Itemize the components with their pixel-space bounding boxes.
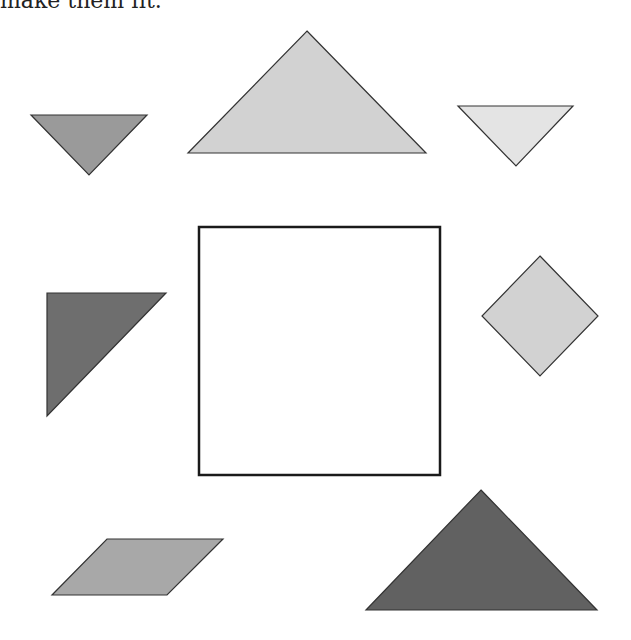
target-square-outline (199, 227, 440, 475)
medium-triangle-dark-gray[interactable] (47, 293, 166, 416)
parallelogram-gray[interactable] (52, 539, 223, 595)
large-triangle-darkest-gray[interactable] (366, 490, 597, 610)
small-triangle-lightest-gray[interactable] (458, 106, 573, 166)
small-triangle-mid-gray[interactable] (31, 115, 147, 175)
square-diamond-light-gray[interactable] (482, 256, 598, 376)
tangram-canvas (0, 0, 631, 640)
large-triangle-light-gray[interactable] (188, 31, 426, 153)
